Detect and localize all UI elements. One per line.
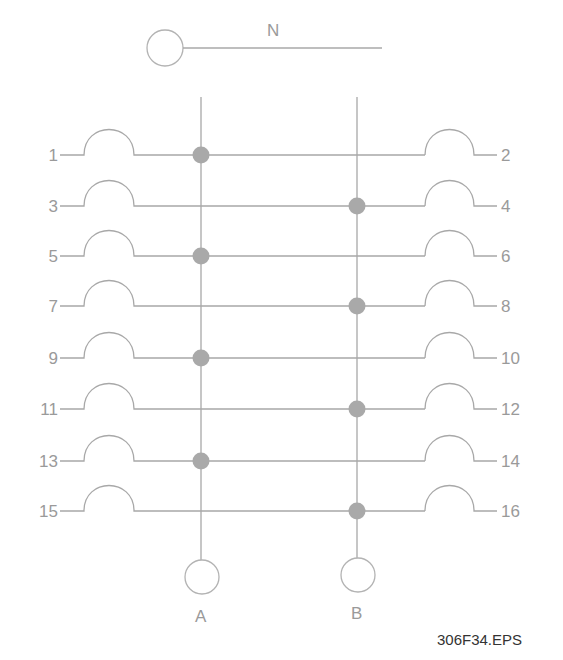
bus-a-label: A	[195, 607, 207, 626]
breaker-left-arc	[60, 486, 425, 512]
bus-a-terminal: A	[185, 560, 219, 626]
bus-connection-node	[193, 248, 210, 265]
circuit-label-right: 2	[501, 146, 510, 165]
breaker-right-arc	[425, 231, 497, 257]
circuit-label-right: 10	[501, 349, 520, 368]
breaker-rows: 12345678910111213141516	[39, 130, 520, 522]
circuit-label-left: 1	[49, 146, 58, 165]
breaker-row: 910	[49, 333, 520, 369]
circuit-label-left: 3	[49, 197, 58, 216]
circuit-label-right: 12	[501, 400, 520, 419]
breaker-row: 1112	[40, 384, 520, 420]
circuit-label-left: 7	[49, 297, 58, 316]
breaker-left-arc	[60, 436, 425, 462]
circuit-label-left: 11	[40, 400, 58, 419]
breaker-row: 1314	[39, 436, 520, 472]
breaker-right-arc	[425, 333, 497, 359]
circuit-label-left: 9	[49, 349, 58, 368]
breaker-right-arc	[425, 486, 497, 512]
breaker-left-arc	[60, 181, 425, 207]
bus-connection-node	[349, 503, 366, 520]
circuit-label-right: 4	[501, 197, 510, 216]
neutral-label: N	[267, 21, 279, 40]
bus-connection-node	[349, 198, 366, 215]
circuit-label-left: 13	[39, 452, 58, 471]
breaker-right-arc	[425, 436, 497, 462]
bus-connection-node	[193, 453, 210, 470]
circuit-label-right: 8	[501, 297, 510, 316]
bus-a-terminal-circle	[185, 560, 219, 594]
bus-b-label: B	[351, 604, 362, 623]
figure-id: 306F34.EPS	[437, 631, 522, 648]
bus-b-terminal: B	[341, 558, 375, 623]
circuit-label-right: 6	[501, 247, 510, 266]
breaker-row: 56	[49, 231, 511, 267]
bus-connection-node	[349, 298, 366, 315]
breaker-row: 34	[49, 181, 511, 217]
breaker-row: 12	[49, 130, 511, 166]
neutral-terminal: N	[147, 21, 382, 66]
circuit-label-right: 16	[501, 502, 520, 521]
circuit-label-right: 14	[501, 452, 520, 471]
breaker-right-arc	[425, 130, 497, 156]
breaker-right-arc	[425, 181, 497, 207]
breaker-left-arc	[60, 130, 425, 156]
breaker-right-arc	[425, 281, 497, 307]
bus-connection-node	[193, 350, 210, 367]
breaker-left-arc	[60, 333, 425, 359]
breaker-left-arc	[60, 231, 425, 257]
circuit-label-left: 15	[39, 502, 58, 521]
circuit-label-left: 5	[49, 247, 58, 266]
bus-connection-node	[349, 401, 366, 418]
breaker-left-arc	[60, 281, 425, 307]
breaker-row: 78	[49, 281, 511, 317]
breaker-left-arc	[60, 384, 425, 410]
breaker-row: 1516	[39, 486, 520, 522]
circuit-diagram: N 12345678910111213141516 A B 306F34.EPS	[0, 0, 563, 660]
neutral-terminal-circle	[147, 30, 183, 66]
bus-b-terminal-circle	[341, 558, 375, 592]
bus-connection-node	[193, 147, 210, 164]
breaker-right-arc	[425, 384, 497, 410]
